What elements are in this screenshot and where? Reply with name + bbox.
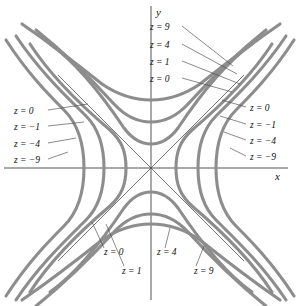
leader-line-left-zm1 (48, 122, 84, 126)
leader-line-top-z4 (182, 44, 237, 74)
y-axis-label: y (155, 6, 161, 18)
contour-labels-right: z = 0 z = −1 z = −4 z = −9 (249, 103, 276, 162)
contour-label-top-z9: z = 9 (149, 22, 170, 32)
leader-line-right-zm4 (224, 132, 246, 140)
contour-label-bottom-z4: z = 4 (156, 247, 177, 257)
contour-label-bottom-z0: z = 0 (103, 247, 124, 257)
leader-line-bottom-z4 (165, 228, 170, 248)
contour-label-right-z0: z = 0 (249, 103, 270, 113)
x-axis-label: x (274, 170, 280, 182)
contour-label-bottom-z1: z = 1 (121, 266, 142, 276)
figure-canvas: z = 9 z = 4 z = 1 z = 0 z = 0 z = −1 z =… (0, 0, 296, 306)
contour-labels-top: z = 9 z = 4 z = 1 z = 0 (149, 22, 170, 84)
contour-label-right-zm1: z = −1 (249, 120, 276, 130)
leader-line-right-zm9 (230, 148, 246, 156)
leader-line-top-z9 (182, 26, 233, 66)
contour-labels-left: z = 0 z = −1 z = −4 z = −9 (13, 106, 40, 165)
level-curves-figure: z = 9 z = 4 z = 1 z = 0 z = 0 z = −1 z =… (0, 0, 296, 306)
leader-line-left-zm9 (48, 152, 68, 159)
contour-labels-bottom: z = 0 z = 4 z = 1 z = 9 (103, 247, 214, 276)
contour-label-left-z0: z = 0 (13, 106, 34, 116)
contour-label-left-zm1: z = −1 (13, 122, 40, 132)
contour-label-top-z0: z = 0 (149, 74, 170, 84)
contour-label-top-z1: z = 1 (149, 57, 170, 67)
contour-label-left-zm4: z = −4 (13, 139, 40, 149)
leader-line-left-zm4 (48, 138, 76, 143)
contour-label-right-zm9: z = −9 (249, 152, 276, 162)
contour-label-bottom-z9: z = 9 (193, 266, 214, 276)
contour-label-left-zm9: z = −9 (13, 155, 40, 165)
contour-label-right-zm4: z = −4 (249, 136, 276, 146)
leader-line-right-zm1 (220, 116, 246, 124)
leader-line-bottom-z9 (196, 246, 204, 266)
contour-label-top-z4: z = 4 (149, 40, 170, 50)
